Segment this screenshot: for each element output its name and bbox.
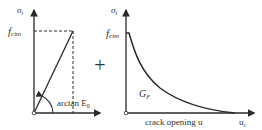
left-y-label: σt: [17, 5, 23, 16]
x-end-label: uc: [239, 117, 247, 128]
angle-arc: [42, 96, 53, 113]
left-origin: [32, 111, 36, 115]
right-y-label: σt: [111, 5, 117, 16]
right-diagram: σt fctm GF crack opening u uc: [106, 5, 254, 128]
x-axis-label: crack opening u: [145, 117, 203, 127]
plus-operator: +: [94, 54, 105, 76]
stress-diagram: σt fctm arctan E0 + σt fctm GF crack ope…: [0, 0, 262, 130]
fracture-energy-label: GF: [139, 88, 150, 100]
right-peak-label: fctm: [106, 27, 119, 40]
right-origin: [124, 111, 128, 115]
angle-label: arctan E0: [57, 98, 90, 109]
left-peak-label: fctm: [8, 25, 21, 38]
left-diagram: σt fctm arctan E0: [8, 5, 100, 115]
softening-curve: [126, 33, 235, 113]
